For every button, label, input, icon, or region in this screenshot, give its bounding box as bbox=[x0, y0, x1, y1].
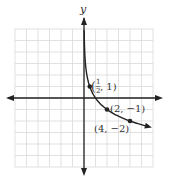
x-axis-right-arrow-icon bbox=[155, 95, 163, 101]
y-axis-down-arrow-icon bbox=[81, 168, 87, 176]
svg-text:(: ( bbox=[91, 80, 96, 94]
point-label-half-1: ( 1 2 , 1) bbox=[91, 78, 117, 95]
curve-arrow-icon bbox=[144, 123, 152, 129]
point-label-4-neg2: (4, −2) bbox=[94, 123, 129, 134]
point-label-2-neg1: (2, −1) bbox=[110, 103, 145, 114]
x-axis-left-arrow-icon bbox=[6, 95, 14, 101]
svg-text:, 1): , 1) bbox=[100, 81, 117, 92]
y-axis-up-arrow-icon bbox=[81, 17, 87, 25]
function-graph: y ( 1 2 , 1) (2, −1) (4, −2) bbox=[0, 0, 169, 177]
y-axis-label: y bbox=[79, 3, 87, 16]
data-point bbox=[105, 107, 110, 112]
